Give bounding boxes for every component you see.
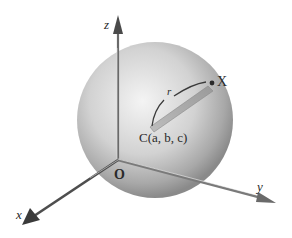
z-axis-label: z: [104, 18, 109, 31]
sphere-diagram: [0, 0, 292, 238]
point-label: X: [217, 75, 227, 89]
sphere: [77, 42, 233, 198]
x-axis: [22, 160, 118, 225]
center-label: C(a, b, c): [139, 131, 187, 144]
y-axis-label: y: [257, 180, 263, 193]
x-axis-label: x: [16, 208, 22, 221]
radius-label: r: [167, 86, 171, 97]
origin-label: O: [114, 168, 125, 182]
